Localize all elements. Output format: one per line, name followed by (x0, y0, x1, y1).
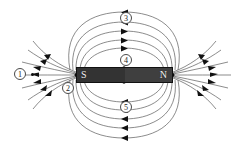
arrow-upper-2 (121, 38, 128, 44)
right-fan-line-2 (173, 50, 221, 73)
arrow-left-5 (33, 79, 41, 84)
arrow-upper-1 (121, 46, 128, 52)
callout-label-2: 2 (62, 82, 74, 94)
bar-magnet: S N (76, 67, 173, 83)
arrow-right-7 (197, 90, 204, 96)
arrow-left-1 (44, 54, 51, 60)
arrow-left-6 (40, 85, 47, 91)
right-fan-line-6 (173, 77, 221, 100)
right-fan-line-3 (173, 62, 228, 74)
right-fan-line-5 (173, 76, 228, 88)
left-fan-line-3 (22, 62, 76, 74)
south-pole-label: S (81, 70, 87, 80)
lower-loop-3 (76, 80, 172, 119)
arrow-lower-5 (121, 135, 128, 141)
left-fan-field-lines (20, 41, 76, 109)
callout-label-4: 4 (120, 54, 132, 66)
south-pole-half: S (77, 68, 125, 82)
north-pole-label: N (160, 70, 167, 80)
arrow-right-3 (208, 66, 216, 71)
callout-label-1: 1 (14, 68, 26, 80)
callout-label-5: 5 (120, 101, 132, 113)
arrow-upper-3 (121, 29, 128, 35)
arrow-right-5 (208, 79, 216, 84)
north-pole-half: N (125, 68, 173, 82)
arrow-right-1 (198, 54, 205, 60)
magnetic-field-diagram: S N 1 2 3 4 5 (0, 0, 243, 144)
arrow-right-6 (202, 85, 209, 91)
left-field-origin-dot (31, 73, 34, 76)
right-fan-field-lines (173, 41, 231, 109)
arrow-left-3 (33, 66, 41, 71)
callout-label-3: 3 (120, 12, 132, 24)
arrow-lower-4 (121, 125, 128, 131)
arrow-lower-3 (121, 116, 128, 122)
